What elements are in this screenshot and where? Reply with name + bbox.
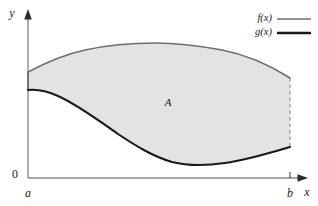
figure-container: y x 0 a b A f(x) g(x) — [0, 0, 318, 206]
origin-label: 0 — [12, 167, 18, 181]
x-axis-arrowhead — [298, 174, 309, 182]
legend-label-g: g(x) — [255, 26, 272, 38]
region-label-a: A — [164, 96, 172, 108]
area-between-curves-figure: y x 0 a b A f(x) g(x) — [0, 0, 318, 206]
y-axis-arrowhead — [24, 9, 32, 20]
legend: f(x) g(x) — [255, 12, 311, 38]
y-axis-label: y — [8, 6, 15, 20]
shaded-region-a — [28, 43, 290, 165]
legend-entry-f: f(x) — [257, 12, 311, 24]
legend-entry-g: g(x) — [255, 26, 311, 38]
x-axis-label: x — [303, 185, 310, 199]
x-label-b: b — [287, 186, 293, 200]
legend-label-f: f(x) — [257, 12, 272, 24]
x-label-a: a — [25, 186, 31, 200]
